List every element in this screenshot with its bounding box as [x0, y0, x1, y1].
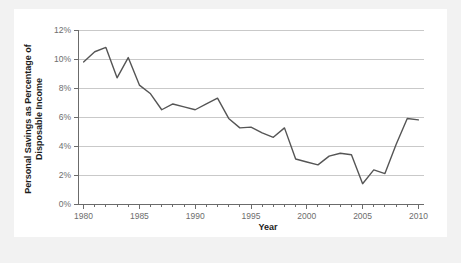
x-tick-label-1990: 1990: [186, 211, 205, 221]
x-axis-title: Year: [258, 222, 278, 232]
y-tick-label-10%: 10%: [54, 54, 71, 64]
x-tick-label-2005: 2005: [353, 211, 372, 221]
y-tick-labels: 0%2%4%6%8%10%12%: [54, 25, 71, 209]
y-tick-label-8%: 8%: [59, 83, 72, 93]
x-tick-label-2010: 2010: [409, 211, 428, 221]
y-tick-label-4%: 4%: [59, 141, 72, 151]
savings-rate-line: [84, 47, 419, 183]
chart-card: 0%2%4%6%8%10%12% 19801985199019952000200…: [14, 9, 447, 237]
personal-savings-line-chart: 0%2%4%6%8%10%12% 19801985199019952000200…: [14, 9, 447, 237]
y-axis-title-line-2: Disposable Income: [34, 78, 44, 160]
x-tick-label-1995: 1995: [242, 211, 261, 221]
gridlines: [78, 30, 424, 175]
x-tick-label-2000: 2000: [297, 211, 316, 221]
x-tick-label-1980: 1980: [74, 211, 93, 221]
x-tick-labels: 1980198519901995200020052010: [74, 211, 428, 221]
x-axis: [78, 204, 424, 209]
y-axis-title-line-1: Personal Savings as Percentage of: [23, 43, 33, 194]
y-tick-label-2%: 2%: [59, 170, 72, 180]
chart-page: 0%2%4%6%8%10%12% 19801985199019952000200…: [0, 0, 461, 263]
x-tick-label-1985: 1985: [130, 211, 149, 221]
y-tick-label-12%: 12%: [54, 25, 71, 35]
y-axis: [74, 30, 78, 204]
y-tick-label-6%: 6%: [59, 112, 72, 122]
y-tick-label-0%: 0%: [59, 199, 72, 209]
